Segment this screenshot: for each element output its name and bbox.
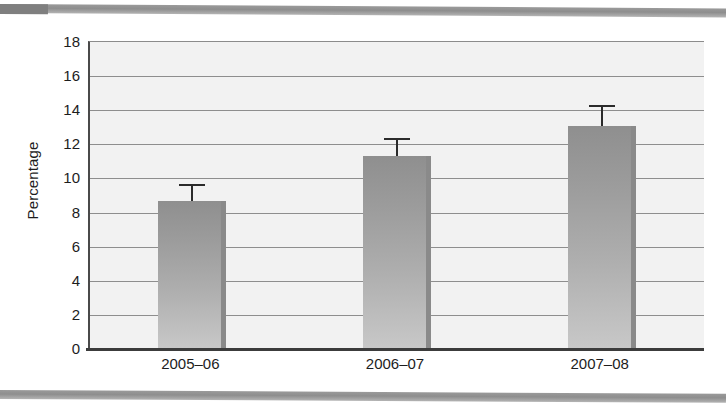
error-bar-stem xyxy=(396,138,398,157)
y-tick-label: 2 xyxy=(72,305,80,322)
page-footer-rule xyxy=(0,390,726,403)
y-tick-label: 8 xyxy=(72,203,80,220)
y-tick-label: 18 xyxy=(63,33,80,50)
scanned-page: Percentage 181614121086420 2005–062006–0… xyxy=(0,0,726,405)
plot-inner xyxy=(90,42,704,349)
y-tick-label: 0 xyxy=(72,340,80,357)
bar xyxy=(363,156,431,349)
x-tick-label: 2007–08 xyxy=(570,355,628,372)
y-tick-label: 6 xyxy=(72,237,80,254)
y-axis-ticks: 181614121086420 xyxy=(38,22,80,382)
x-tick-label: 2006–07 xyxy=(366,355,424,372)
bar-chart: Percentage 181614121086420 2005–062006–0… xyxy=(0,22,726,382)
page-header-rule xyxy=(0,4,726,17)
gridline xyxy=(90,110,704,111)
x-axis-ticks: 2005–062006–072007–08 xyxy=(88,355,702,381)
gridline xyxy=(90,76,704,77)
error-bar-cap xyxy=(179,184,205,186)
bar xyxy=(158,201,226,349)
page-header-tab xyxy=(0,4,48,14)
y-tick-label: 4 xyxy=(72,271,80,288)
y-tick-label: 14 xyxy=(63,101,80,118)
error-bar-stem xyxy=(601,105,603,125)
y-tick-label: 10 xyxy=(63,169,80,186)
error-bar-cap xyxy=(384,138,410,140)
x-tick-label: 2005–06 xyxy=(161,355,219,372)
error-bar-stem xyxy=(191,184,193,201)
bar xyxy=(568,126,636,349)
y-tick-label: 16 xyxy=(63,67,80,84)
y-tick-label: 12 xyxy=(63,135,80,152)
x-axis-line xyxy=(86,348,704,351)
plot-area xyxy=(88,41,704,349)
error-bar-cap xyxy=(589,105,615,107)
